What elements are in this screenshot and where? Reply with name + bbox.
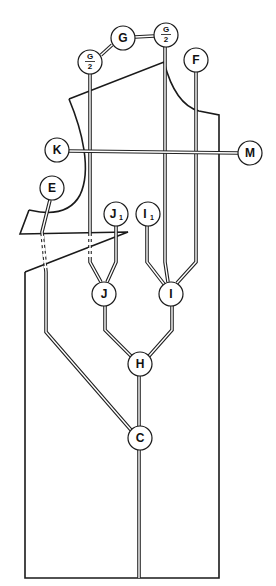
node-J1: J 1	[104, 202, 128, 226]
node-G: G	[111, 26, 135, 50]
svg-text:J: J	[101, 287, 108, 301]
svg-text:M: M	[245, 146, 255, 160]
node-G-half-left: G 2	[78, 50, 102, 74]
svg-text:C: C	[136, 431, 145, 445]
svg-text:F: F	[192, 53, 199, 67]
node-E: E	[40, 176, 64, 200]
svg-text:E: E	[48, 181, 56, 195]
node-K: K	[45, 138, 69, 162]
svg-text:I: I	[143, 207, 146, 221]
svg-text:2: 2	[164, 35, 169, 44]
node-J: J	[92, 282, 116, 306]
node-F: F	[184, 48, 208, 72]
svg-text:1: 1	[150, 214, 154, 221]
svg-text:G: G	[87, 52, 93, 61]
svg-text:H: H	[136, 357, 145, 371]
svg-text:G: G	[118, 31, 127, 45]
node-I: I	[159, 282, 183, 306]
svg-text:J: J	[110, 207, 117, 221]
node-C: C	[128, 426, 152, 450]
pattern-diagram: G G 2 G 2 F K M E J 1 I 1 J	[0, 0, 276, 586]
pattern-outline	[20, 62, 219, 578]
measurement-rails	[42, 36, 238, 578]
svg-text:G: G	[163, 25, 169, 34]
node-H: H	[128, 352, 152, 376]
svg-text:2: 2	[88, 62, 93, 71]
node-G-half-right: G 2	[154, 23, 178, 47]
svg-text:I: I	[169, 287, 172, 301]
svg-text:1: 1	[119, 214, 123, 221]
node-I1: I 1	[136, 202, 160, 226]
node-M: M	[238, 141, 262, 165]
svg-text:K: K	[53, 143, 62, 157]
